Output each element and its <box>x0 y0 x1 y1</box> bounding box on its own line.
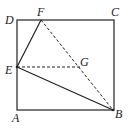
segment-ef <box>17 20 41 67</box>
point-b <box>112 109 115 112</box>
label-b: B <box>115 107 123 121</box>
label-a: A <box>11 111 20 125</box>
label-d: D <box>4 13 14 27</box>
label-e: E <box>4 63 13 77</box>
diagram-canvas: D F C E G A B <box>0 0 130 134</box>
label-f: F <box>36 5 45 19</box>
point-e <box>16 66 19 69</box>
segment-eb <box>17 67 113 110</box>
square-abcd <box>17 20 114 110</box>
label-c: C <box>111 5 120 19</box>
segment-fb-dashed <box>41 20 113 110</box>
geometry-diagram: D F C E G A B <box>0 0 130 134</box>
label-g: G <box>80 55 89 69</box>
